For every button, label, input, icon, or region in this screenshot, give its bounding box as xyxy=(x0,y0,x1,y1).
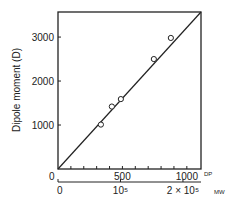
data-point xyxy=(98,122,103,127)
y-tick-label: 3000 xyxy=(32,32,55,43)
mw-tick-label: 2 × 10⁵ xyxy=(167,185,199,196)
x-tick-label: 0 xyxy=(49,171,55,182)
x-axis-unit-dp: DP xyxy=(204,171,212,177)
dipole-moment-chart: 05001000100020003000010⁵2 × 10⁵ Dipole m… xyxy=(0,0,233,203)
data-point xyxy=(118,96,123,101)
mw-tick-label: 10⁵ xyxy=(113,185,128,196)
data-point xyxy=(168,35,173,40)
y-axis-title: Dipole moment (D) xyxy=(11,48,22,132)
fit-line xyxy=(58,12,201,169)
x2-axis-unit-mw: MW xyxy=(214,189,225,195)
y-tick-label: 2000 xyxy=(32,76,55,87)
data-point xyxy=(151,56,156,61)
data-point xyxy=(109,104,114,109)
x-tick-label: 500 xyxy=(114,171,131,182)
mw-tick-label: 0 xyxy=(57,185,63,196)
y-tick-label: 1000 xyxy=(32,120,55,131)
x-tick-label: 1000 xyxy=(176,171,199,182)
